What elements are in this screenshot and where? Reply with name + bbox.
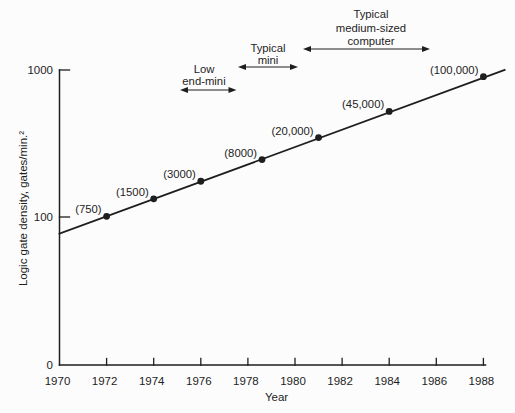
- low-end-mini-label: Low: [194, 63, 216, 75]
- data-point-label: (750): [75, 203, 102, 215]
- data-point-label: (100,000): [430, 64, 479, 76]
- data-point: [315, 134, 322, 141]
- data-point: [259, 156, 266, 163]
- y-tick-label: 1000: [27, 64, 53, 76]
- data-point: [103, 213, 110, 220]
- x-tick-label: 1986: [422, 375, 448, 387]
- arrowhead-left-icon: [180, 87, 188, 93]
- x-tick-label: 1976: [186, 375, 212, 387]
- typical-medium-sized-computer-label: computer: [347, 35, 394, 47]
- y-axis-title: Logic gate density, gates/min.²: [17, 109, 32, 309]
- data-point-label: (3000): [163, 168, 196, 180]
- x-axis-title: Year: [236, 391, 317, 403]
- data-point: [386, 108, 393, 115]
- arrowhead-right-icon: [290, 64, 298, 70]
- data-point-label: (20,000): [271, 125, 313, 137]
- arrowhead-right-icon: [422, 46, 430, 52]
- data-point-label: (8000): [224, 147, 257, 159]
- typical-medium-sized-computer-label: Typical: [353, 8, 388, 20]
- x-tick-label: 1984: [374, 375, 400, 387]
- data-point-label: (1500): [116, 186, 149, 198]
- x-tick-label: 1988: [469, 375, 495, 387]
- x-tick-label: 1970: [45, 375, 71, 387]
- data-point-label: (45,000): [342, 98, 384, 110]
- arrowhead-right-icon: [229, 87, 237, 93]
- x-tick-label: 1982: [327, 375, 353, 387]
- x-tick-label: 1978: [233, 375, 259, 387]
- x-tick-label: 1972: [92, 375, 118, 387]
- typical-medium-sized-computer-label: medium-sized: [336, 22, 406, 34]
- x-tick-label: 1974: [139, 375, 165, 387]
- typical-mini-label: mini: [258, 54, 279, 66]
- data-point: [150, 195, 157, 202]
- y-tick-label: 100: [34, 211, 53, 223]
- low-end-mini-label: end-mini: [182, 75, 225, 87]
- typical-mini-label: Typical: [250, 42, 285, 54]
- x-tick-label: 1980: [280, 375, 306, 387]
- chart-canvas: 1000100019701972197419761978198019821984…: [0, 0, 515, 413]
- data-point: [480, 73, 487, 80]
- figure-logic-gate-density: 1000100019701972197419761978198019821984…: [0, 0, 515, 413]
- trend-line: [60, 70, 505, 234]
- arrowhead-left-icon: [238, 64, 246, 70]
- y-tick-label: 0: [47, 359, 53, 371]
- data-point: [197, 178, 204, 185]
- arrowhead-left-icon: [303, 46, 311, 52]
